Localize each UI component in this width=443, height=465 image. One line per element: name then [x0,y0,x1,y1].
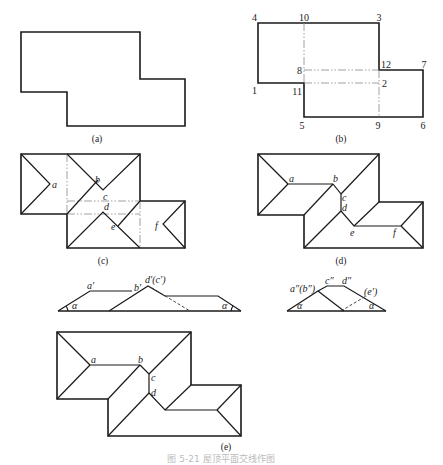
panel-d: a b c d e f (d) [258,154,423,267]
vertex-2: 2 [382,78,387,89]
panel-a-label: (a) [92,134,103,145]
point-d: d [151,387,157,398]
point-b: b [333,173,338,184]
point-d-prime-c-prime: d′(c′) [145,274,166,286]
vertex-12: 12 [381,59,391,70]
vertex-7: 7 [422,59,427,70]
point-b-prime: b′ [134,282,142,293]
panel-c: a b c d e f (c) [21,154,185,267]
panel-e: a b c d (e) [57,332,241,453]
vertex-10: 10 [299,12,309,23]
vertex-11: 11 [292,86,302,97]
vertex-1: 1 [252,85,257,96]
panel-e-label: (e) [221,442,232,453]
point-e: e [350,227,355,238]
point-e: e [111,221,116,232]
vertex-5: 5 [300,120,305,131]
vertex-8: 8 [297,65,302,76]
angle-alpha-left: α [297,300,303,311]
panel-d-label: (d) [335,256,346,267]
point-a: a [91,354,96,365]
vertex-9: 9 [376,120,381,131]
point-e-prime: (e′) [364,286,378,298]
panel-b: 4 10 3 8 12 7 1 11 2 5 9 6 (b) [252,12,427,145]
angle-alpha-right: α [222,300,228,311]
panel-c-label: (c) [98,256,109,267]
roof-diagram: (a) 4 10 3 8 12 7 1 11 2 5 9 6 (b) [0,0,443,465]
panel-a: (a) [21,32,185,145]
point-d: d [104,201,110,212]
point-b: b [138,354,143,365]
side-elevation: α α a″(b″) c″ d″ (e′) [287,275,386,311]
point-f: f [393,227,397,238]
point-a: a [289,173,294,184]
figure-caption: 图 5-21 屋顶平面交线作图 [167,453,274,464]
point-a-dbl-b-dbl: a″(b″) [290,283,316,295]
point-a: a [52,179,57,190]
point-f: f [155,220,159,231]
vertex-4: 4 [252,12,257,23]
vertex-6: 6 [421,120,426,131]
angle-alpha-left: α [72,300,78,311]
front-elevation: α α a′ b′ d′(c′) [58,274,241,311]
point-c: c [151,372,156,383]
panel-b-label: (b) [335,134,346,145]
point-d: d [342,202,348,213]
point-d-dbl: d″ [342,275,352,286]
angle-alpha-right: α [369,300,375,311]
point-b: b [95,174,100,185]
point-c-dbl: c″ [325,275,334,286]
vertex-3: 3 [377,12,382,23]
point-a-prime: a′ [87,280,95,291]
